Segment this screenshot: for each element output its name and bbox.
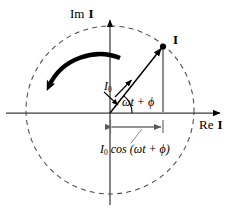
diagram-canvas [0,0,234,209]
phasor-magnitude-sub: 0 [108,85,112,94]
projection-leader-line [131,129,142,143]
imaginary-axis-label-symbol: I [88,6,93,21]
projection-label-sub: 0 [104,148,108,157]
phasor-diagram-figure: ImI ReI I I0 ωt + ϕ I0cos (ωt + ϕ) [0,0,234,209]
phasor-tip-dot [160,43,166,49]
phasor-magnitude-label: I0 [104,80,112,94]
real-axis-label-symbol: I [217,117,222,132]
projection-label: I0cos (ωt + ϕ) [100,143,170,157]
angle-label: ωt + ϕ [122,96,154,108]
imaginary-axis-label-prefix: Im [70,6,84,21]
real-axis-label: ReI [199,118,223,131]
real-axis-label-prefix: Re [199,117,213,132]
phasor-label: I [173,33,178,46]
imaginary-axis-label: ImI [70,7,94,20]
projection-label-rest: cos (ωt + ϕ) [111,142,170,156]
